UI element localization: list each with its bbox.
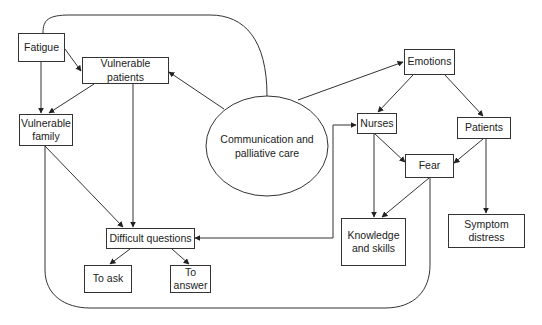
node-fatigue: Fatigue [18, 33, 65, 62]
edge-fatigue-vulnerable-patients [65, 49, 81, 71]
node-to-answer-label: To answer [174, 266, 208, 292]
edge-vulnerable-patients-family [49, 84, 94, 113]
node-to-answer: To answer [170, 265, 211, 293]
node-emotions-label: Emotions [408, 55, 452, 68]
node-fear-label: Fear [419, 159, 441, 172]
edge-fear-knowledge [382, 178, 429, 217]
communication-text: Communication and palliative care [217, 132, 317, 160]
node-nurses-label: Nurses [360, 117, 393, 130]
edge-emotions-patients [445, 75, 483, 116]
node-difficult-questions: Difficult questions [106, 228, 195, 249]
node-to-ask: To ask [84, 265, 132, 293]
node-knowledge-and-skills: Knowledge and skills [341, 218, 406, 266]
node-knowledge-and-skills-label: Knowledge and skills [342, 229, 405, 255]
node-vulnerable-family-label: Vulnerable family [21, 117, 71, 143]
node-patients-label: Patients [465, 121, 503, 134]
edge-patients-fear [454, 139, 483, 163]
node-difficult-questions-label: Difficult questions [109, 232, 191, 245]
edge-nurses-fear [375, 134, 405, 162]
node-vulnerable-patients-label: Vulnerable patients [83, 57, 168, 83]
edge-emotions-nurses [378, 75, 413, 112]
communication-label: Communication and palliative care [206, 96, 328, 196]
node-to-ask-label: To ask [93, 272, 123, 285]
node-symptom-distress: Symptom distress [448, 214, 525, 248]
node-fear: Fear [405, 154, 454, 178]
node-symptom-distress-label: Symptom distress [449, 218, 524, 244]
node-fatigue-label: Fatigue [24, 41, 59, 54]
edge-communication-emotions [298, 62, 403, 100]
node-patients: Patients [457, 117, 511, 139]
node-emotions: Emotions [404, 49, 455, 75]
edge-difficult-questions-to-answer [172, 249, 189, 264]
edge-vulnerable-family-difficult-questions [45, 146, 123, 227]
node-vulnerable-patients: Vulnerable patients [82, 57, 169, 84]
edge-difficult-questions-to-ask [110, 249, 130, 264]
node-nurses: Nurses [357, 113, 397, 134]
node-vulnerable-family: Vulnerable family [19, 114, 73, 146]
